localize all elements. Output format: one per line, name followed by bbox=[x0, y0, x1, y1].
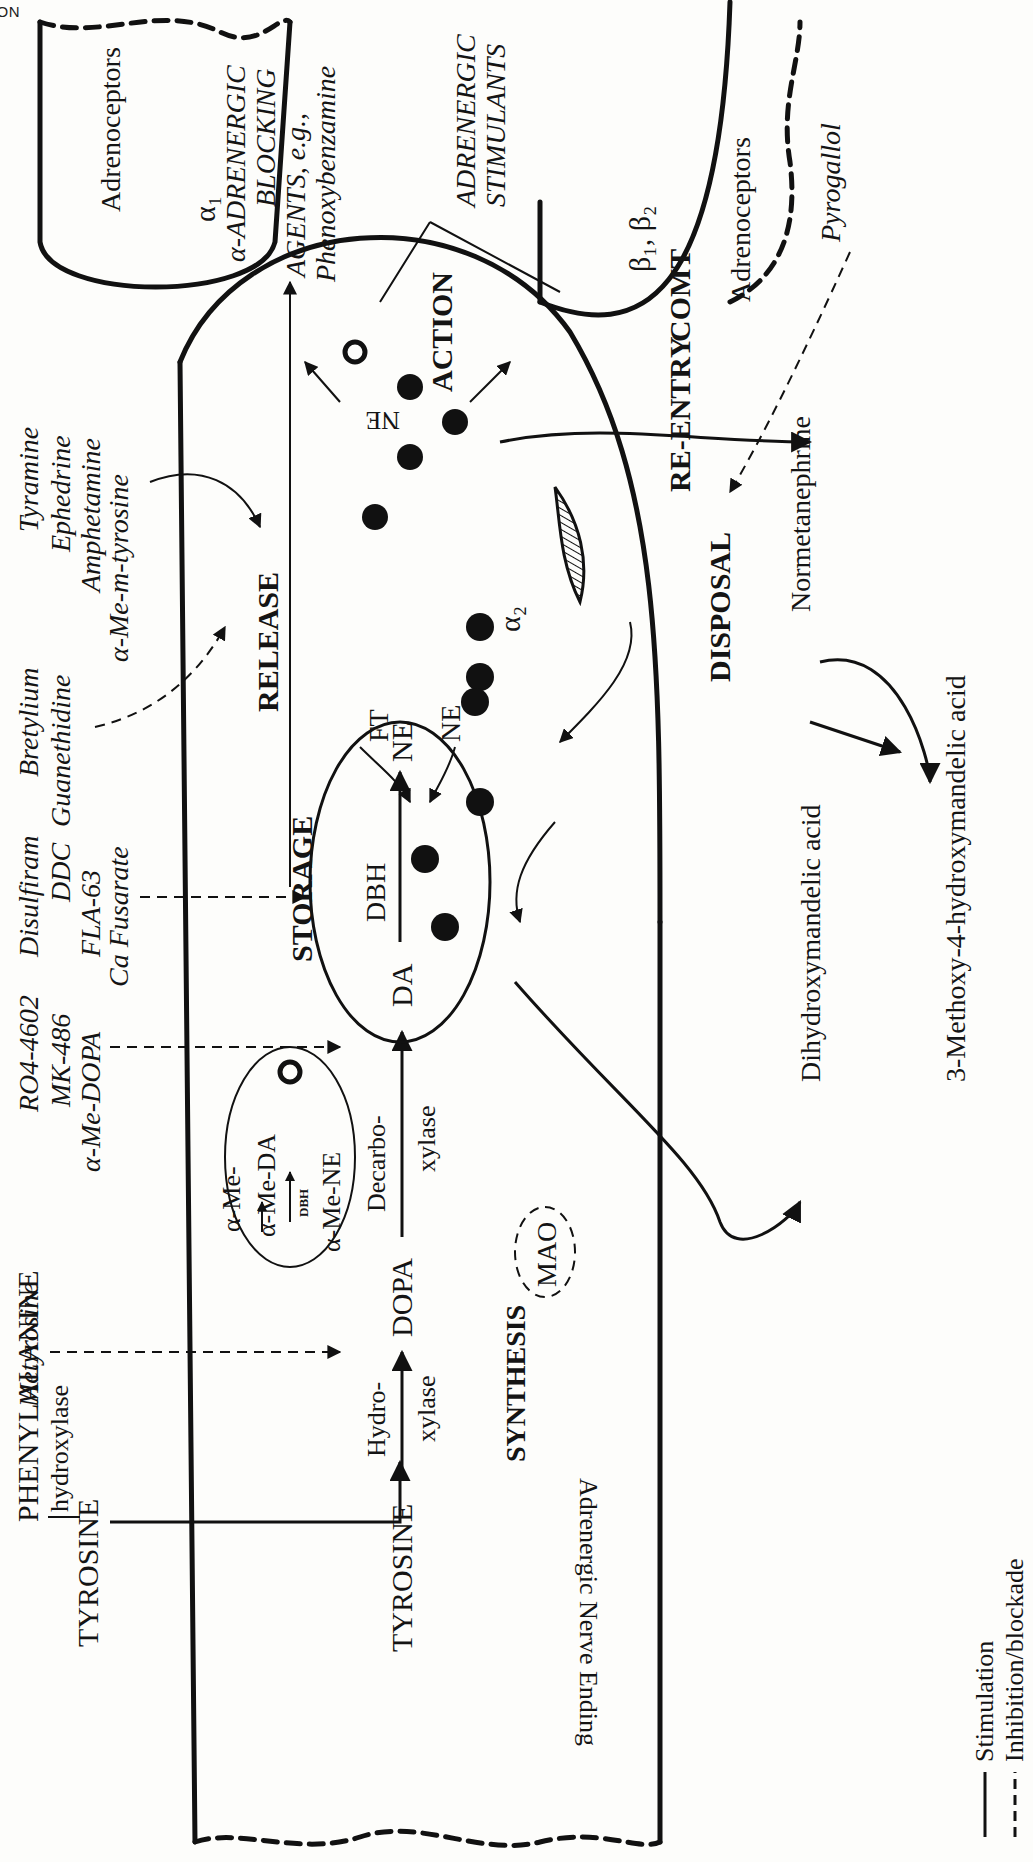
svg-text:xylase: xylase bbox=[412, 1106, 441, 1172]
svg-text:Decarbo-: Decarbo- bbox=[362, 1115, 391, 1212]
svg-text:DOPA: DOPA bbox=[385, 1258, 418, 1337]
svg-text:α-Me-: α-Me- bbox=[217, 1166, 246, 1232]
svg-text:DA: DA bbox=[385, 963, 418, 1007]
legend: Stimulation Inhibition/blockade bbox=[970, 1558, 1029, 1837]
nerve-ending-label: Adrenergic Nerve Ending bbox=[574, 1478, 603, 1746]
svg-text:TYROSINE: TYROSINE bbox=[385, 1504, 418, 1652]
svg-text:Ca Fusarate: Ca Fusarate bbox=[103, 846, 134, 987]
svg-text:FLA-63: FLA-63 bbox=[75, 870, 106, 958]
svg-text:MK-486: MK-486 bbox=[45, 1014, 76, 1108]
svg-text:Phenoxybenzamine: Phenoxybenzamine bbox=[310, 66, 341, 283]
disposal-pathway: DISPOSAL RE-ENTRY COMT Normetanephrine D… bbox=[500, 249, 971, 1082]
drug-dbh-inhibitors: Disulfiram DDC FLA-63 Ca Fusarate bbox=[13, 836, 305, 987]
legend-stimulation: Stimulation bbox=[970, 1641, 999, 1762]
svg-text:Tyramine: Tyramine bbox=[13, 427, 44, 532]
svg-text:DDC: DDC bbox=[45, 843, 76, 903]
drug-alpha2-agonist: Clonidine bbox=[500, 472, 531, 582]
svg-text:STIMULANTS: STIMULANTS bbox=[480, 44, 511, 207]
svg-text:COMT: COMT bbox=[663, 249, 696, 342]
label-release: RELEASE bbox=[251, 572, 284, 712]
svg-text:α-Me-NE: α-Me-NE bbox=[317, 1152, 346, 1252]
diagram-canvas: ADRENERGIC TRANSMISSION PHENYLALANINE hy… bbox=[0, 0, 1033, 1862]
svg-text:β₁, β₂: β₁, β₂ bbox=[623, 206, 656, 272]
svg-text:α-Me-DA: α-Me-DA bbox=[252, 1134, 281, 1237]
label-action: ACTION bbox=[425, 272, 458, 392]
svg-text:DBH: DBH bbox=[296, 1189, 311, 1217]
svg-text:Amphetamine: Amphetamine bbox=[75, 438, 106, 594]
drug-releasers: Tyramine Ephedrine Amphetamine α-Me-m-ty… bbox=[13, 427, 260, 662]
svg-text:BLOCKING: BLOCKING bbox=[250, 69, 281, 207]
drug-beta-blockers: β-ADRENERGIC bbox=[590, 46, 621, 243]
svg-text:Disulfiram: Disulfiram bbox=[13, 836, 44, 958]
svg-text:hydroxylase: hydroxylase bbox=[45, 1385, 74, 1512]
svg-text:NE: NE bbox=[365, 406, 400, 435]
svg-text:Adrenoceptors: Adrenoceptors bbox=[725, 137, 756, 302]
svg-text:Bretylium: Bretylium bbox=[13, 668, 44, 777]
svg-text:ADRENERGIC TRANSMISSION: ADRENERGIC TRANSMISSION bbox=[0, 3, 20, 20]
svg-text:α-ADRENERGIC: α-ADRENERGIC bbox=[220, 65, 251, 262]
svg-text:RE-ENTRY: RE-ENTRY bbox=[663, 336, 696, 492]
svg-text:DISPOSAL: DISPOSAL bbox=[703, 532, 736, 682]
svg-text:xylase: xylase bbox=[412, 1376, 441, 1442]
svg-text:FT: FT bbox=[363, 709, 394, 742]
svg-text:DBH: DBH bbox=[360, 863, 391, 922]
svg-text:AGENTS, e.g.,: AGENTS, e.g., bbox=[280, 113, 311, 279]
alpha2-receptor: α₂ bbox=[493, 487, 584, 632]
svg-text:Normetanephrine: Normetanephrine bbox=[785, 416, 816, 612]
synthesis-chain: TYROSINE Hydro- xylase DOPA Decarbo- xyl… bbox=[362, 1032, 531, 1652]
svg-text:ADRENERGIC: ADRENERGIC bbox=[450, 34, 481, 209]
svg-text:Metyrosine: Metyrosine bbox=[13, 1282, 44, 1408]
svg-text:MAO: MAO bbox=[531, 1222, 562, 1287]
drug-alpha-blockers: α-ADRENERGIC BLOCKING AGENTS, e.g., Phen… bbox=[220, 65, 341, 283]
svg-text:α₁: α₁ bbox=[188, 196, 221, 222]
svg-text:Dihydroxymandelic acid: Dihydroxymandelic acid bbox=[795, 804, 826, 1082]
svg-text:Adrenoceptors: Adrenoceptors bbox=[95, 47, 126, 212]
svg-text:3-Methoxy-4-hydroxymandelic ac: 3-Methoxy-4-hydroxymandelic acid bbox=[940, 675, 971, 1082]
reentry-arrow-1 bbox=[560, 622, 632, 742]
svg-text:Hydro-: Hydro- bbox=[362, 1382, 391, 1457]
svg-text:NE: NE bbox=[435, 705, 466, 742]
svg-text:RO4-4602: RO4-4602 bbox=[13, 995, 44, 1113]
reentry-arrow-2 bbox=[516, 822, 555, 922]
svg-text:TYROSINE: TYROSINE bbox=[71, 1499, 104, 1647]
svg-text:α-Me-m-tyrosine: α-Me-m-tyrosine bbox=[103, 474, 134, 662]
svg-text:Guanethidine: Guanethidine bbox=[45, 675, 76, 827]
legend-inhibition: Inhibition/blockade bbox=[1000, 1558, 1029, 1762]
svg-text:Ephedrine: Ephedrine bbox=[45, 435, 76, 553]
drug-mao-inhibitors: MAO INHIBITORS, bbox=[665, 1217, 696, 1443]
drug-stimulants: ADRENERGIC STIMULANTS bbox=[380, 34, 560, 302]
svg-text:SYNTHESIS: SYNTHESIS bbox=[500, 1305, 531, 1462]
tyrosine-uptake-arrow bbox=[110, 1462, 400, 1522]
synaptic-ne: NE bbox=[305, 362, 510, 530]
mao-enzyme: MAO bbox=[515, 1207, 575, 1297]
svg-text:α₂: α₂ bbox=[493, 606, 526, 632]
false-transmitter-vesicle: α-Me-DA DBH α-Me-NE α-Me- bbox=[217, 1047, 355, 1267]
svg-text:Pyrogallol: Pyrogallol bbox=[815, 123, 846, 243]
running-header: ADRENERGIC TRANSMISSION bbox=[0, 3, 20, 20]
svg-text:α-Me-DOPA: α-Me-DOPA bbox=[75, 1031, 106, 1172]
storage-vesicle: DA DBH NE bbox=[310, 722, 490, 1042]
